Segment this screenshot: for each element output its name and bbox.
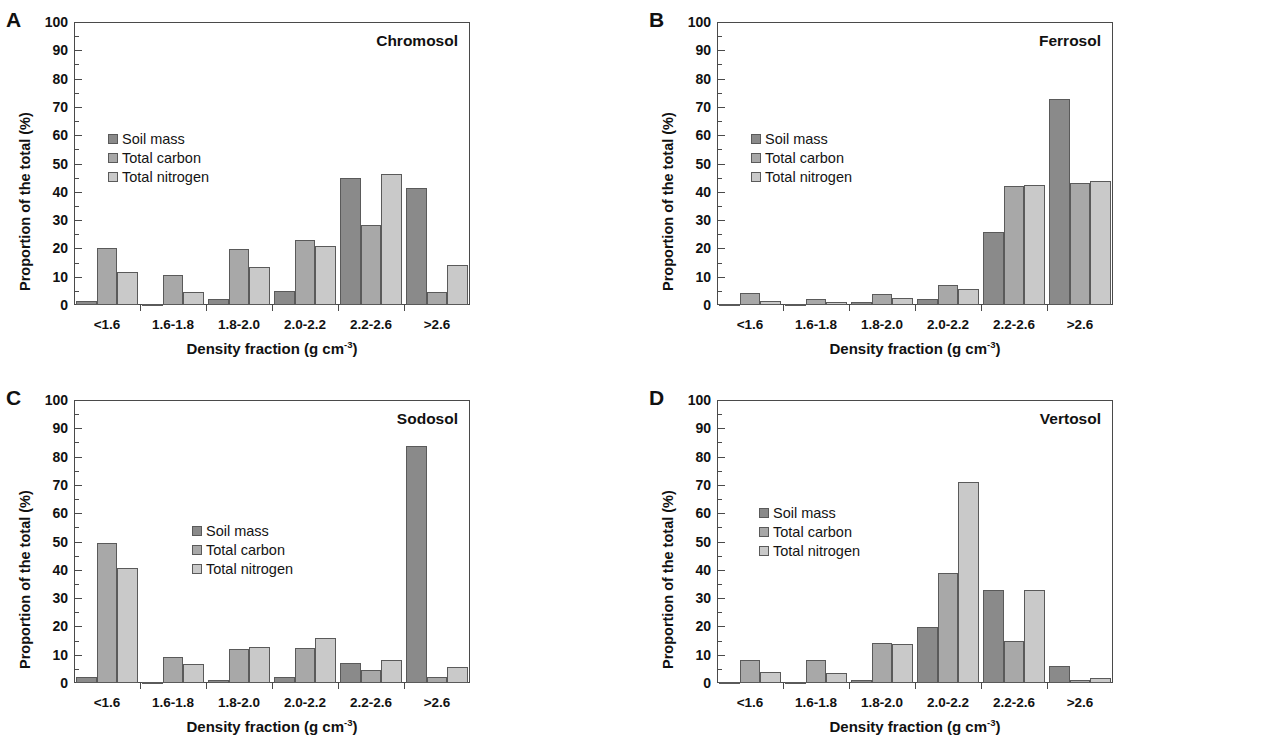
y-minor-tick-mark	[718, 584, 722, 585]
x-tick-mark	[206, 683, 207, 689]
y-axis-title: Proportion of the total (%)	[17, 490, 33, 669]
y-minor-tick-mark	[75, 178, 79, 179]
bar-a-5-1	[427, 292, 448, 305]
legend-item-soil-mass: Soil mass	[751, 130, 852, 148]
bar-a-3-1	[295, 240, 316, 305]
y-tick-mark	[75, 50, 82, 51]
x-tick-label: 2.0-2.2	[927, 317, 969, 332]
y-tick-label: 80	[675, 449, 711, 465]
bar-c-1-0	[142, 682, 163, 684]
x-tick-label: 2.2-2.6	[993, 317, 1035, 332]
y-tick-label: 0	[32, 675, 68, 691]
legend-label: Total carbon	[206, 543, 285, 558]
y-minor-tick-mark	[718, 669, 722, 670]
y-tick-mark	[718, 485, 725, 486]
y-axis-title: Proportion of the total (%)	[17, 112, 33, 291]
y-tick-mark	[718, 107, 725, 108]
y-minor-tick-mark	[718, 471, 722, 472]
x-axis-title-main: Density fraction (g cm	[830, 340, 988, 357]
y-axis-title: Proportion of the total (%)	[660, 112, 676, 291]
bar-c-0-2	[117, 568, 138, 683]
legend-label: Soil mass	[206, 524, 269, 539]
legend-swatch-total-carbon-icon	[759, 527, 769, 537]
bar-a-2-0	[208, 299, 229, 305]
bar-c-0-0	[76, 677, 97, 683]
bar-c-1-2	[183, 664, 204, 683]
y-tick-label: 10	[32, 647, 68, 663]
bar-d-2-0	[851, 680, 872, 683]
x-axis-title-tail: )	[352, 340, 357, 357]
panel-letter-a: A	[6, 8, 21, 32]
y-minor-tick-mark	[75, 93, 79, 94]
bar-d-3-1	[938, 573, 959, 683]
x-tick-label: 2.0-2.2	[927, 695, 969, 710]
bar-d-5-1	[1070, 680, 1091, 683]
legend-d: Soil massTotal carbonTotal nitrogen	[759, 504, 860, 560]
legend-label: Soil mass	[765, 132, 828, 147]
bar-c-5-0	[406, 446, 427, 683]
y-minor-tick-mark	[75, 263, 79, 264]
y-tick-label: 10	[675, 269, 711, 285]
y-minor-tick-mark	[75, 471, 79, 472]
y-minor-tick-mark	[718, 414, 722, 415]
x-tick-mark	[338, 305, 339, 311]
y-minor-tick-mark	[718, 612, 722, 613]
legend-item-soil-mass: Soil mass	[192, 522, 293, 540]
bar-b-4-2	[1024, 185, 1045, 305]
y-minor-tick-mark	[718, 36, 722, 37]
y-tick-label: 100	[675, 14, 711, 30]
x-axis-title-exponent: -3	[987, 339, 995, 350]
y-minor-tick-mark	[75, 527, 79, 528]
y-tick-label: 40	[32, 562, 68, 578]
bar-a-4-0	[340, 178, 361, 305]
y-tick-label: 100	[32, 14, 68, 30]
y-tick-label: 20	[675, 618, 711, 634]
bar-d-4-1	[1004, 641, 1025, 683]
x-tick-mark	[272, 683, 273, 689]
y-minor-tick-mark	[75, 206, 79, 207]
bar-c-2-2	[249, 647, 270, 683]
bar-b-3-0	[917, 299, 938, 305]
bar-b-0-0	[719, 304, 740, 306]
legend-swatch-total-nitrogen-icon	[751, 172, 761, 182]
y-tick-mark	[718, 542, 725, 543]
y-tick-mark	[75, 598, 82, 599]
y-minor-tick-mark	[75, 612, 79, 613]
y-minor-tick-mark	[718, 93, 722, 94]
bar-b-5-2	[1090, 181, 1111, 305]
y-tick-label: 20	[675, 240, 711, 256]
x-tick-mark	[981, 683, 982, 689]
panel-letter-b: B	[649, 8, 664, 32]
y-tick-label: 100	[32, 392, 68, 408]
y-minor-tick-mark	[718, 291, 722, 292]
bar-c-3-2	[315, 638, 336, 683]
y-tick-label: 50	[32, 156, 68, 172]
y-tick-mark	[75, 457, 82, 458]
y-tick-mark	[718, 192, 725, 193]
legend-item-total-carbon: Total carbon	[108, 149, 209, 167]
x-tick-label: 1.8-2.0	[218, 317, 260, 332]
bar-a-5-0	[406, 188, 427, 305]
bar-a-0-1	[97, 248, 118, 305]
x-tick-label: 1.6-1.8	[152, 317, 194, 332]
y-tick-label: 50	[675, 534, 711, 550]
y-tick-label: 10	[675, 647, 711, 663]
bar-d-1-0	[785, 682, 806, 684]
y-tick-label: 60	[32, 505, 68, 521]
x-tick-label: <1.6	[737, 317, 764, 332]
bar-b-3-1	[938, 285, 959, 305]
x-axis-title-tail: )	[352, 718, 357, 735]
bar-a-2-2	[249, 267, 270, 305]
y-tick-mark	[75, 220, 82, 221]
bar-d-3-2	[958, 482, 979, 683]
y-minor-tick-mark	[75, 414, 79, 415]
x-tick-label: <1.6	[737, 695, 764, 710]
legend-item-total-nitrogen: Total nitrogen	[192, 560, 293, 578]
y-minor-tick-mark	[75, 641, 79, 642]
x-axis-title-exponent: -3	[344, 339, 352, 350]
legend-a: Soil massTotal carbonTotal nitrogen	[108, 130, 209, 186]
y-tick-label: 60	[675, 505, 711, 521]
y-tick-mark	[75, 626, 82, 627]
y-minor-tick-mark	[718, 442, 722, 443]
legend-swatch-total-nitrogen-icon	[108, 172, 118, 182]
